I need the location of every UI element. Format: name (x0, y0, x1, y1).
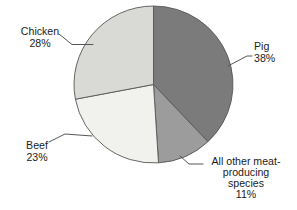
pie-slice-chicken (74, 6, 153, 99)
pie-label-other: All other meat-producingspecies11% (212, 155, 281, 200)
pie-label-pig: Pig38% (254, 40, 276, 64)
leader-line-beef (49, 134, 92, 142)
pie-label-beef: Beef23% (26, 139, 48, 163)
pie-label-pig-line-0: Pig (254, 40, 269, 52)
meat-production-pie-figure: Pig38%All other meat-producingspecies11%… (0, 0, 297, 210)
pie-label-pig-line-1: 38% (254, 52, 276, 64)
leader-line-pig (228, 56, 252, 66)
pie-label-chicken-line-1: 28% (29, 37, 51, 49)
pie-label-beef-line-1: 23% (26, 151, 48, 163)
pie-label-beef-line-0: Beef (26, 139, 48, 151)
pie-label-chicken-line-0: Chicken (21, 25, 59, 37)
pie-label-other-line-3: 11% (236, 188, 257, 200)
pie-chart: Pig38%All other meat-producingspecies11%… (0, 0, 297, 210)
pie-label-chicken: Chicken28% (21, 25, 59, 49)
pie-slices (74, 6, 233, 163)
